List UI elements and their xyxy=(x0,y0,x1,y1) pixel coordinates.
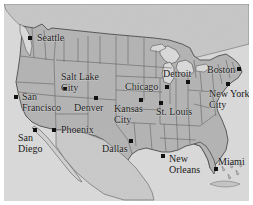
city-label-line: Denver xyxy=(74,103,103,114)
city-label: New YorkCity xyxy=(209,89,249,110)
city-label-line: Phoenix xyxy=(61,125,94,136)
city-label: Denver xyxy=(74,103,103,114)
city-marker[interactable] xyxy=(237,67,241,71)
city-label: Seattle xyxy=(37,33,64,44)
city-label-line: New York xyxy=(209,89,249,100)
city-marker[interactable] xyxy=(186,80,190,84)
us-city-map-figure: SeattleSalt LakeCitySanFranciscoDenverKa… xyxy=(0,0,253,205)
city-marker[interactable] xyxy=(52,128,56,132)
city-label: Chicago xyxy=(125,82,158,93)
city-label: SanFrancisco xyxy=(22,92,61,113)
city-label-line: Chicago xyxy=(125,82,158,93)
city-marker[interactable] xyxy=(139,98,143,102)
city-label: Miami xyxy=(218,157,245,168)
city-marker[interactable] xyxy=(94,96,98,100)
city-marker[interactable] xyxy=(161,154,165,158)
city-marker[interactable] xyxy=(129,139,133,143)
city-marker[interactable] xyxy=(226,82,230,86)
city-label-line: San xyxy=(18,133,42,144)
city-label-line: Orleans xyxy=(169,165,200,176)
city-label-line: St. Louis xyxy=(156,107,192,118)
city-label-line: Diego xyxy=(18,144,42,155)
city-marker[interactable] xyxy=(165,85,169,89)
city-marker[interactable] xyxy=(159,101,163,105)
city-label-line: Kansas xyxy=(114,104,143,115)
city-label: NewOrleans xyxy=(169,154,200,175)
city-label: Boston xyxy=(207,65,235,76)
city-label-line: City xyxy=(209,100,249,111)
city-label-line: Francisco xyxy=(22,103,61,114)
map-canvas[interactable]: SeattleSalt LakeCitySanFranciscoDenverKa… xyxy=(4,4,249,201)
city-marker[interactable] xyxy=(33,128,37,132)
city-label-line: New xyxy=(169,154,200,165)
city-label-line: Detroit xyxy=(163,69,191,80)
city-label-line: Seattle xyxy=(37,33,64,44)
city-label: St. Louis xyxy=(156,107,192,118)
city-label: Salt LakeCity xyxy=(61,72,99,93)
city-label-line: San xyxy=(22,92,61,103)
city-marker[interactable] xyxy=(14,95,18,99)
city-marker[interactable] xyxy=(214,167,218,171)
city-marker[interactable] xyxy=(28,36,32,40)
city-label: Dallas xyxy=(102,144,128,155)
city-label: Phoenix xyxy=(61,125,94,136)
city-label: Detroit xyxy=(163,69,191,80)
city-label-line: Salt Lake xyxy=(61,72,99,83)
city-label-line: City xyxy=(114,115,143,126)
city-label-line: Boston xyxy=(207,65,235,76)
city-label-line: City xyxy=(61,83,99,94)
city-label-line: Dallas xyxy=(102,144,128,155)
city-label-line: Miami xyxy=(218,157,245,168)
city-label: SanDiego xyxy=(18,133,42,154)
city-label: KansasCity xyxy=(114,104,143,125)
